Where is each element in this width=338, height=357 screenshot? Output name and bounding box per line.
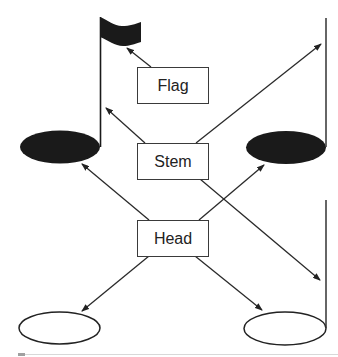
whole-note [19,312,100,344]
half-note [244,200,326,345]
arrow-stem-to-quarter-stem [196,44,321,143]
flag-label: Flag [157,77,188,95]
arrow-stem-to-half-stem [200,179,320,280]
bottom-rule [18,354,338,355]
quarter-note-head [246,131,326,164]
arrow-flag-to-flag [127,48,151,67]
eighth-note-head [20,131,100,164]
arrow-head-to-whole-head [82,256,149,311]
head-label: Head [154,230,192,248]
flag-label-box: Flag [137,67,209,104]
bottom-rule-mark [18,353,25,356]
quarter-note [246,18,326,164]
stem-label-box: Stem [137,143,209,180]
eighth-note [20,17,141,164]
whole-note-head [19,312,100,344]
head-label-box: Head [137,220,209,257]
arrow-stem-to-eighth-stem [106,108,145,143]
half-note-head [244,312,326,345]
stem-label: Stem [154,153,191,171]
eighth-note-flag [100,17,141,46]
arrow-head-to-half-head [195,256,262,310]
